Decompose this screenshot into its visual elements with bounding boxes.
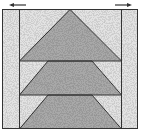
arrow-right-icon [115,3,132,7]
quilt-block-diagram [0,0,148,133]
arrow-left-icon [9,3,26,7]
